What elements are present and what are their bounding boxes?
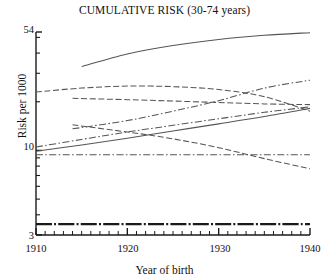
chart-plot-area [0,0,329,278]
chart-series-series-6-solid-rising [36,108,310,151]
y-axis-ticks [36,32,42,235]
chart-series-series-7-dashed-falling [73,125,310,169]
chart-axes [36,32,310,235]
x-axis-ticks [36,228,310,235]
chart-series-series-5-dash-dot-rising-shallow [36,107,310,147]
chart-series-series-3-dashed-flat [73,98,310,104]
chart-series-series-1-top-solid [82,33,310,67]
chart-figure: CUMULATIVE RISK (30-74 years) Risk per 1… [0,0,329,278]
chart-series-layer [36,33,310,225]
